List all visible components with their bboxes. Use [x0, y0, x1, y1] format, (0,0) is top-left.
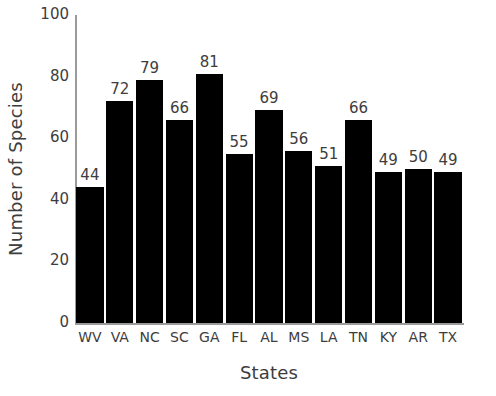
- plot-area: 44727966815569565166495049: [75, 15, 463, 323]
- x-tick-label-la: LA: [314, 329, 344, 345]
- x-tick-label-al: AL: [254, 329, 284, 345]
- bar-value-label: 66: [160, 99, 199, 117]
- y-tick-label: 40: [0, 190, 76, 208]
- bar-value-label: 69: [249, 89, 288, 107]
- x-tick-label-ky: KY: [373, 329, 403, 345]
- bar[interactable]: [285, 151, 312, 323]
- x-axis-tick-labels: WVVANCSCGAFLALMSLATNKYARTX: [75, 329, 463, 353]
- y-tick-label: 60: [0, 128, 76, 146]
- x-tick-label-ar: AR: [403, 329, 433, 345]
- bar-group[interactable]: 56: [285, 15, 312, 323]
- bar[interactable]: [375, 172, 402, 323]
- bar[interactable]: [315, 166, 342, 323]
- x-tick-label-tx: TX: [433, 329, 463, 345]
- bar[interactable]: [405, 169, 432, 323]
- bar[interactable]: [166, 120, 193, 323]
- x-tick-label-sc: SC: [165, 329, 195, 345]
- bar[interactable]: [196, 74, 223, 323]
- x-tick-label-ga: GA: [194, 329, 224, 345]
- bar-group[interactable]: 55: [226, 15, 253, 323]
- bar-group[interactable]: 69: [255, 15, 282, 323]
- x-tick-label-wv: WV: [75, 329, 105, 345]
- bar-group[interactable]: 49: [375, 15, 402, 323]
- x-tick-label-tn: TN: [344, 329, 374, 345]
- bar-value-label: 44: [70, 166, 109, 184]
- x-axis-title: States: [75, 362, 463, 383]
- bar[interactable]: [76, 187, 103, 323]
- bar-value-label: 55: [220, 133, 259, 151]
- bar-chart: Number of Species 020406080100 447279668…: [0, 0, 496, 396]
- bar-value-label: 49: [428, 151, 467, 169]
- bar-group[interactable]: 81: [196, 15, 223, 323]
- bar-value-label: 51: [309, 145, 348, 163]
- bar-group[interactable]: 49: [434, 15, 461, 323]
- y-axis-tick-labels: 020406080100: [0, 0, 69, 396]
- x-tick-label-ms: MS: [284, 329, 314, 345]
- bar-value-label: 79: [130, 59, 169, 77]
- bar-value-label: 81: [190, 53, 229, 71]
- y-tick-label: 0: [0, 313, 76, 331]
- bar-group[interactable]: 79: [136, 15, 163, 323]
- bar-group[interactable]: 51: [315, 15, 342, 323]
- y-tick-label: 100: [0, 5, 76, 23]
- x-tick-label-nc: NC: [135, 329, 165, 345]
- x-tick-label-fl: FL: [224, 329, 254, 345]
- bar-value-label: 72: [100, 80, 139, 98]
- x-axis-line: [75, 323, 464, 325]
- bar[interactable]: [106, 101, 133, 323]
- bar[interactable]: [226, 154, 253, 323]
- y-tick-label: 80: [0, 67, 76, 85]
- bar-value-label: 66: [339, 99, 378, 117]
- y-tick-label: 20: [0, 251, 76, 269]
- bar[interactable]: [434, 172, 461, 323]
- bar-group[interactable]: 44: [76, 15, 103, 323]
- x-tick-label-va: VA: [105, 329, 135, 345]
